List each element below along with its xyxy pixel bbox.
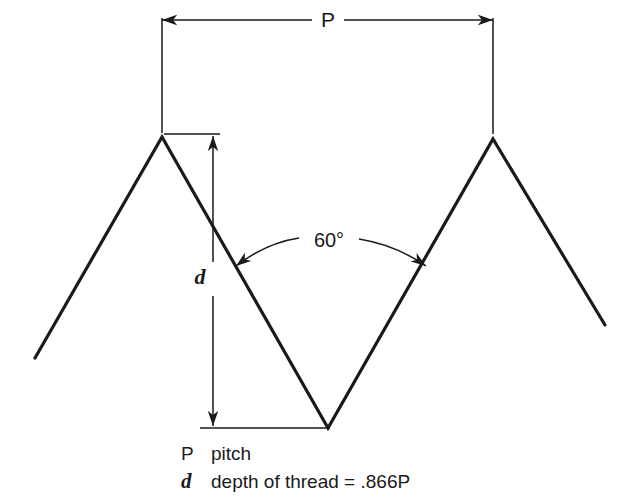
diagram-canvas: P d 60° P pitch d depth of thread = .866… (0, 0, 620, 498)
legend-text-depth: depth of thread = .866P (211, 471, 410, 492)
legend-symbol-pitch: P (181, 443, 194, 464)
legend-text-pitch: pitch (211, 443, 251, 464)
pitch-label: P (321, 8, 335, 31)
legend-symbol-depth: d (181, 469, 192, 493)
angle-label: 60° (314, 229, 344, 251)
angle-arc-left (236, 238, 299, 266)
thread-profile-diagram: P d 60° P pitch d depth of thread = .866… (0, 0, 620, 498)
depth-label: d (195, 264, 207, 289)
thread-profile-outline (35, 137, 605, 428)
angle-arc-right (359, 239, 426, 266)
